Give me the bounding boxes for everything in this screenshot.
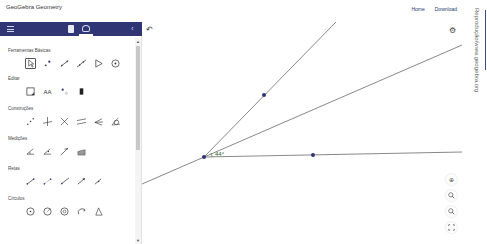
- section-title-circles: Círculos: [8, 196, 25, 201]
- ray-tool-icon[interactable]: [59, 176, 70, 187]
- line-3[interactable]: [204, 152, 462, 157]
- document-icon[interactable]: [68, 25, 74, 33]
- tangents-icon[interactable]: [110, 116, 121, 127]
- distance-tool-icon[interactable]: cm: [59, 146, 70, 157]
- section-title-basic: Ferramentas Básicas: [8, 48, 51, 53]
- point-1[interactable]: [262, 93, 266, 97]
- angle-label: 44°: [215, 151, 225, 157]
- circle-tool-icon[interactable]: [110, 58, 121, 69]
- app-title: GeoGebra Geometry: [6, 4, 62, 10]
- semicircle-tool-icon[interactable]: [76, 206, 87, 217]
- move-tool-icon[interactable]: [25, 58, 36, 69]
- section-title-lines: Retas: [8, 166, 20, 171]
- vector-from-point-icon[interactable]: [93, 176, 104, 187]
- tool-row-edit: AA: [25, 86, 87, 97]
- scroll-down-icon[interactable]: ▼: [136, 238, 140, 243]
- download-link[interactable]: Download: [435, 6, 457, 12]
- angle-tool-icon[interactable]: [25, 146, 36, 157]
- circle-three-points-icon[interactable]: [93, 206, 104, 217]
- hamburger-icon[interactable]: [7, 26, 14, 32]
- perpendicular-bisector-icon[interactable]: [59, 116, 70, 127]
- image-credit: Reprodução/www.geogebra.org: [471, 8, 481, 118]
- vertex-point[interactable]: [202, 155, 206, 159]
- tool-row-circles: [25, 206, 104, 217]
- tool-row-basic: [25, 58, 121, 69]
- segment-fixed-length-icon[interactable]: [42, 176, 53, 187]
- tool-panel: Ferramentas Básicas Editar AA Construçõe…: [0, 36, 134, 244]
- vector-tool-icon[interactable]: [76, 176, 87, 187]
- zoom-in-icon[interactable]: [446, 190, 457, 201]
- text-tool-icon[interactable]: AA: [42, 86, 53, 97]
- credit-accent-bar: [485, 10, 486, 70]
- perpendicular-line-icon[interactable]: [42, 116, 53, 127]
- fullscreen-icon[interactable]: [446, 222, 457, 233]
- zoom-controls: ⊕: [446, 174, 458, 233]
- angle-arc: [211, 153, 212, 157]
- compass-tool-icon[interactable]: [59, 206, 70, 217]
- scrollbar-thumb[interactable]: [136, 46, 140, 150]
- circle-center-point-icon[interactable]: [25, 206, 36, 217]
- tool-row-constructions: [25, 116, 121, 127]
- point-tool-icon[interactable]: [42, 58, 53, 69]
- top-links: Home Download: [411, 6, 457, 12]
- angle-given-size-icon[interactable]: [42, 146, 53, 157]
- line-2[interactable]: [142, 45, 462, 184]
- sidebar-scrollbar[interactable]: ▲ ▼: [135, 38, 141, 244]
- segment-tool-icon-2[interactable]: [25, 176, 36, 187]
- tool-row-measurements: cm: [25, 146, 87, 157]
- delete-tool-icon[interactable]: [76, 86, 87, 97]
- section-title-edit: Editar: [8, 76, 20, 81]
- circle-center-radius-icon[interactable]: [42, 206, 53, 217]
- line-1[interactable]: [204, 22, 336, 157]
- page: GeoGebra Geometry Home Download ‹ Ferram…: [0, 0, 487, 244]
- point-2[interactable]: [311, 153, 315, 157]
- line-tool-icon[interactable]: [76, 58, 87, 69]
- undo-icon[interactable]: ↶: [146, 25, 153, 34]
- home-view-icon[interactable]: ⊕: [446, 174, 457, 185]
- gear-icon[interactable]: ⚙: [449, 26, 456, 35]
- segment-tool-icon[interactable]: [59, 58, 70, 69]
- area-tool-icon[interactable]: [76, 146, 87, 157]
- sidebar-header: ‹: [0, 22, 142, 36]
- section-title-constructions: Construções: [8, 106, 33, 111]
- home-link[interactable]: Home: [411, 6, 424, 12]
- parallel-line-icon[interactable]: [76, 116, 87, 127]
- move-graphics-icon[interactable]: [25, 86, 36, 97]
- chevron-left-icon[interactable]: ‹: [131, 24, 134, 33]
- show-hide-label-icon[interactable]: [59, 86, 70, 97]
- sidebar: ‹ Ferramentas Básicas Editar AA: [0, 22, 142, 244]
- zoom-out-icon[interactable]: [446, 206, 457, 217]
- tools-icon[interactable]: [82, 25, 90, 32]
- angle-bisector-icon[interactable]: [93, 116, 104, 127]
- section-title-measurements: Medições: [8, 136, 27, 141]
- tool-row-lines: [25, 176, 104, 187]
- credit-text: Reprodução/www.geogebra.org: [474, 8, 480, 92]
- scroll-up-icon[interactable]: ▲: [136, 39, 140, 44]
- polygon-tool-icon[interactable]: [93, 58, 104, 69]
- midpoint-tool-icon[interactable]: [25, 116, 36, 127]
